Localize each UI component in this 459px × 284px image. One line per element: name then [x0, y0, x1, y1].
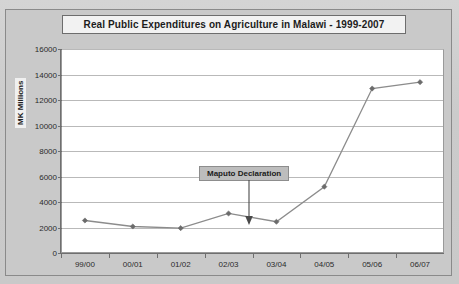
data-point-marker: [82, 218, 87, 223]
page-title: Real Public Expenditures on Agriculture …: [84, 19, 385, 30]
x-tick-mark: [396, 254, 397, 258]
annotation-arrow-icon: [238, 180, 260, 226]
x-tick-label: 01/02: [171, 260, 191, 269]
x-tick-label: 99/00: [75, 260, 95, 269]
annotation-maputo-declaration: Maputo Declaration: [199, 166, 289, 181]
x-tick-label: 06/07: [410, 260, 430, 269]
x-tick-label: 03/04: [266, 260, 286, 269]
y-tick-label: 2000: [17, 223, 57, 232]
x-tick-label: 00/01: [123, 260, 143, 269]
data-point-marker: [178, 226, 183, 231]
x-tick-mark: [300, 254, 301, 258]
chart-title-box: Real Public Expenditures on Agriculture …: [62, 15, 406, 34]
data-point-marker: [226, 211, 231, 216]
x-tick-mark: [157, 254, 158, 258]
annotation-label: Maputo Declaration: [207, 169, 281, 178]
x-tick-mark: [253, 254, 254, 258]
x-tick-label: 05/06: [362, 260, 382, 269]
data-point-marker: [370, 86, 375, 91]
y-tick-label: 0: [17, 249, 57, 258]
chart-frame: Real Public Expenditures on Agriculture …: [5, 9, 452, 276]
x-tick-mark: [205, 254, 206, 258]
x-tick-mark: [348, 254, 349, 258]
y-tick-label: 4000: [17, 198, 57, 207]
x-tick-label: 04/05: [314, 260, 334, 269]
x-tick-label: 02/03: [219, 260, 239, 269]
data-point-marker: [130, 224, 135, 229]
y-tick-label: 8000: [17, 147, 57, 156]
y-axis-label: MK Millions: [15, 78, 26, 128]
y-tick-label: 6000: [17, 172, 57, 181]
y-tick-label: 16000: [17, 45, 57, 54]
page-background: Real Public Expenditures on Agriculture …: [0, 0, 459, 284]
data-point-marker: [417, 80, 422, 85]
x-axis-ticks: 99/0000/0101/0202/0303/0404/0505/0606/07: [61, 254, 444, 274]
x-tick-mark: [109, 254, 110, 258]
x-tick-mark: [61, 254, 62, 258]
